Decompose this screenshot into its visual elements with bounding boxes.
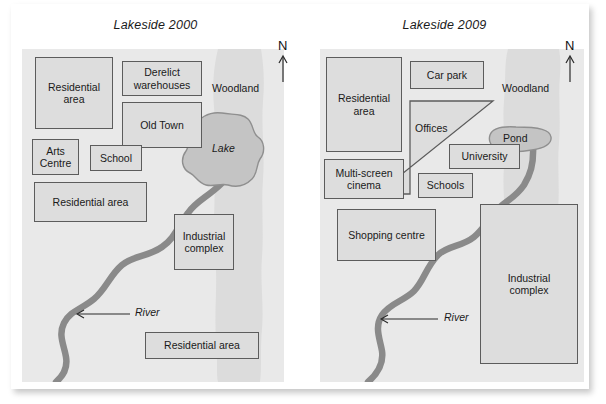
zone-label-line1: Industrial	[508, 272, 551, 284]
zone-label: Residential area	[53, 196, 129, 209]
river-label-2000: River	[135, 306, 160, 318]
zone-label: Car park	[427, 69, 467, 82]
map-canvas-2009: Residential area Car park Offices Univer…	[320, 49, 584, 382]
zone-old-town[interactable]: Old Town	[122, 102, 202, 148]
zone-label-line2: warehouses	[134, 79, 191, 91]
zone-label-line2: complex	[509, 284, 548, 296]
zone-label-line2: Centre	[40, 157, 72, 169]
zone-derelict-warehouses[interactable]: Derelict warehouses	[122, 61, 202, 96]
zone-shopping-centre[interactable]: Shopping centre	[337, 209, 436, 261]
zone-label: School	[100, 152, 132, 165]
zone-residential-area-s[interactable]: Residential area	[145, 332, 259, 359]
map-canvas-2000: Residential area Derelict warehouses Old…	[22, 49, 284, 382]
river-label-2009: River	[444, 311, 469, 323]
figure-root: Lakeside 2000 Residential	[0, 0, 606, 404]
zone-arts-centre[interactable]: Arts Centre	[32, 139, 79, 175]
zone-university[interactable]: University	[449, 144, 520, 169]
panel-lakeside-2000: Lakeside 2000 Residential	[11, 4, 300, 389]
zone-label: Schools	[427, 179, 464, 192]
zone-label: Residential area	[164, 339, 240, 352]
woodland-label-2009: Woodland	[502, 82, 549, 94]
zone-label: University	[461, 150, 507, 163]
zone-label-line2: cinema	[347, 179, 381, 191]
north-label-2000: N	[278, 38, 287, 53]
zone-label-line1: Residential	[338, 92, 390, 104]
panel-title-2000: Lakeside 2000	[11, 18, 300, 32]
zone-label-line1: Derelict	[144, 66, 180, 78]
north-label-2009: N	[565, 38, 574, 53]
zone-multi-screen-cinema[interactable]: Multi-screen cinema	[324, 159, 404, 199]
zone-residential-area-nw[interactable]: Residential area	[326, 57, 402, 152]
panel-lakeside-2009: Lakeside 2009	[300, 4, 589, 389]
figure-card: Lakeside 2000 Residential	[11, 4, 589, 389]
pond-label-2009: Pond	[503, 132, 528, 144]
zone-label-line1: Multi-screen	[335, 167, 392, 179]
woodland-label-2000: Woodland	[212, 82, 259, 94]
lake-label-2000: Lake	[212, 142, 235, 154]
zone-label-line1: Residential	[48, 81, 100, 93]
zone-label-line2: area	[63, 93, 84, 105]
zone-label-line1: Industrial	[183, 230, 226, 242]
zone-residential-area-w[interactable]: Residential area	[34, 182, 147, 222]
zone-residential-area-nw[interactable]: Residential area	[35, 57, 113, 129]
zone-schools[interactable]: Schools	[418, 173, 473, 198]
zone-car-park[interactable]: Car park	[410, 61, 484, 89]
zone-industrial-complex[interactable]: Industrial complex	[174, 214, 234, 270]
zone-label-line2: area	[353, 105, 374, 117]
zone-school[interactable]: School	[90, 145, 142, 171]
zone-label: Shopping centre	[348, 229, 424, 242]
zone-industrial-complex[interactable]: Industrial complex	[480, 204, 578, 364]
panel-title-2009: Lakeside 2009	[300, 18, 589, 32]
zone-label-line2: complex	[184, 242, 223, 254]
zone-label-line1: Arts	[46, 145, 65, 157]
zone-offices-label: Offices	[415, 122, 447, 134]
zone-label: Old Town	[140, 119, 184, 132]
